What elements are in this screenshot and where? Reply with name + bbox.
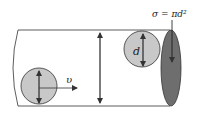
target-particle: d [124, 31, 160, 67]
velocity-label: υ [66, 74, 72, 85]
tube-left-edge [13, 30, 18, 106]
collision-cylinder-diagram: d σ = πd² υ [0, 0, 197, 116]
moving-particle: υ [21, 68, 77, 104]
diameter-label: d [133, 45, 140, 58]
cross-section-label: σ = πd² [152, 9, 187, 19]
